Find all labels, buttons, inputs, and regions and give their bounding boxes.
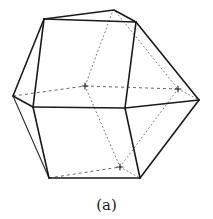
visible-edges — [13, 10, 199, 178]
edge-midleft-bottomleft — [33, 107, 49, 178]
vertex-mark-backbottom — [117, 164, 123, 170]
hidden-edge-backbottom-bottomright — [120, 167, 140, 178]
hidden-edge-backcenter-backbottom — [85, 86, 120, 167]
edge-midright-bottomright — [125, 108, 140, 178]
hidden-edge-backcenter-backright — [85, 86, 178, 89]
hidden-edge-backright-right — [178, 89, 199, 100]
hidden-edge-bottomleft-backbottom — [49, 167, 120, 178]
vertex-mark-backcenter — [82, 83, 88, 89]
hidden-edge-apex-backright — [116, 12, 178, 89]
edge-right-bottomright — [140, 100, 199, 178]
polyhedron-diagram — [0, 0, 213, 219]
edge-midleft-midright — [33, 107, 125, 108]
hidden-edge-apex-backcenter — [85, 13, 112, 86]
hidden-edges — [13, 12, 199, 178]
edge-topright-midright — [125, 22, 136, 108]
figure-caption: (a) — [0, 196, 213, 214]
edge-midright-right — [125, 100, 199, 108]
edge-top-front — [44, 19, 136, 22]
edge-left-bottomleft — [13, 96, 49, 178]
hidden-edge-left-backcenter — [13, 86, 85, 96]
